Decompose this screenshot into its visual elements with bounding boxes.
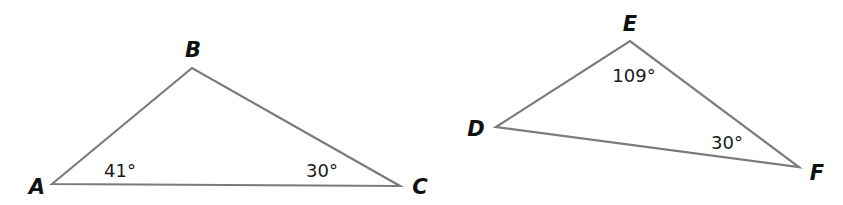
triangle-def: D E F 109° 30° <box>467 12 825 185</box>
vertex-label-d: D <box>467 117 484 141</box>
triangle-abc: A B C 41° 30° <box>27 38 428 199</box>
vertex-label-b: B <box>185 38 201 62</box>
angle-label-c: 30° <box>306 160 338 181</box>
triangle-def-outline <box>496 41 799 167</box>
vertex-label-c: C <box>412 175 428 199</box>
vertex-label-f: F <box>810 161 825 185</box>
triangle-diagram: A B C 41° 30° D E F 109° 30° <box>0 0 843 205</box>
angle-label-a: 41° <box>104 160 136 181</box>
angle-label-f: 30° <box>711 132 743 153</box>
vertex-label-e: E <box>623 12 638 36</box>
angle-label-e: 109° <box>612 65 655 86</box>
vertex-label-a: A <box>27 175 45 199</box>
